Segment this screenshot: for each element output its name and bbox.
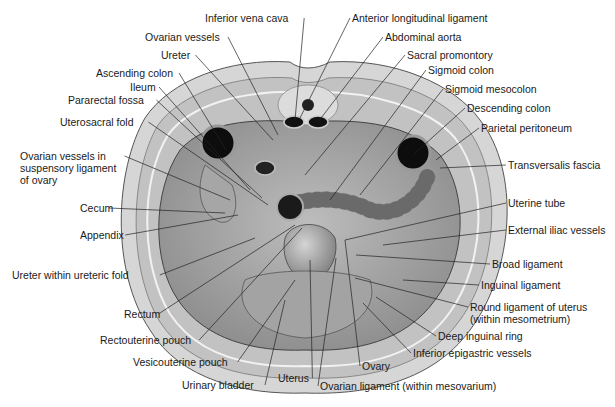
label-sigmoid-mesocolon: Sigmoid mesocolon <box>445 83 537 95</box>
descending-colon-lumen <box>396 136 430 170</box>
rectum-lumen <box>277 194 303 220</box>
label-ureter-within-ureteric-fold: Ureter within ureteric fold <box>12 269 129 281</box>
label-transversalis-fascia: Transversalis fascia <box>508 159 600 171</box>
inferior-vena-cava-vessel <box>284 116 304 128</box>
label-ovarian-vessels: Ovarian vessels <box>145 31 220 43</box>
ascending-colon-lumen <box>201 126 235 160</box>
label-ovary: Ovary <box>362 360 390 372</box>
label-inguinal-ligament: Inguinal ligament <box>481 279 560 291</box>
label-uterosacral-fold: Uterosacral fold <box>60 116 134 128</box>
label-appendix: Appendix <box>80 229 124 241</box>
label-round-ligament-of-uterus: Round ligament of uterus(within mesometr… <box>470 301 587 325</box>
label-parietal-peritoneum: Parietal peritoneum <box>481 122 572 134</box>
label-vesicouterine-pouch: Vesicouterine pouch <box>133 356 228 368</box>
label-inferior-epigastric-vessels: Inferior epigastric vessels <box>413 347 531 359</box>
ileum-loop <box>255 161 275 175</box>
label-rectum: Rectum <box>124 308 160 320</box>
label-ovarian-vessels-suspensory: Ovarian vessels insuspensory ligamentof … <box>20 150 116 186</box>
label-urinary-bladder: Urinary bladder <box>182 379 254 391</box>
label-cecum: Cecum <box>80 202 113 214</box>
label-ovarian-ligament-within-mesovarium: Ovarian ligament (within mesovarium) <box>320 380 496 392</box>
label-uterus: Uterus <box>278 372 309 384</box>
label-descending-colon: Descending colon <box>467 102 550 114</box>
label-abdominal-aorta: Abdominal aorta <box>385 31 461 43</box>
label-ileum: Ileum <box>130 81 156 93</box>
label-rectouterine-pouch: Rectouterine pouch <box>100 334 191 346</box>
label-sacral-promontory: Sacral promontory <box>407 49 493 61</box>
label-uterine-tube: Uterine tube <box>508 197 565 209</box>
label-deep-inguinal-ring: Deep inguinal ring <box>438 330 523 342</box>
label-anterior-longitudinal-ligament: Anterior longitudinal ligament <box>352 12 487 24</box>
label-inferior-vena-cava: Inferior vena cava <box>205 12 288 24</box>
label-external-iliac-vessels: External iliac vessels <box>508 224 605 236</box>
label-pararectal-fossa: Pararectal fossa <box>68 94 144 106</box>
label-ureter: Ureter <box>161 49 190 61</box>
label-broad-ligament: Broad ligament <box>492 258 563 270</box>
label-sigmoid-colon: Sigmoid colon <box>428 64 494 76</box>
pelvis-diagram: Inferior vena cavaOvarian vesselsUreterA… <box>0 0 615 407</box>
spinal-canal <box>302 99 314 111</box>
label-ascending-colon: Ascending colon <box>96 67 173 79</box>
